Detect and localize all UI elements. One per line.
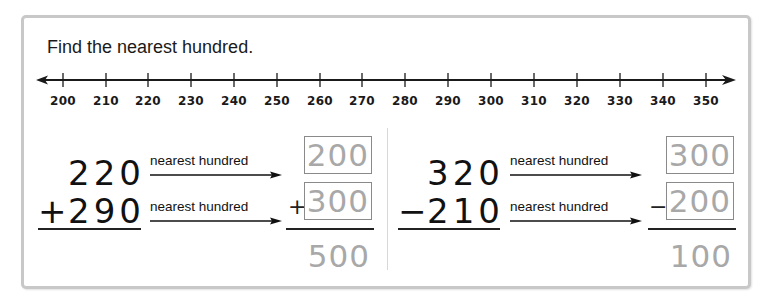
rounded-answer-box[interactable]: 300: [304, 182, 372, 220]
tick-label: 320: [557, 94, 597, 108]
addend-bottom: 290: [68, 194, 145, 228]
tick-label: 280: [385, 94, 425, 108]
estimated-sum: 500: [300, 238, 370, 274]
nearest-hundred-label: nearest hundred: [150, 154, 248, 168]
rounded-answer-box[interactable]: 200: [666, 182, 734, 220]
nearest-hundred-label: nearest hundred: [510, 154, 608, 168]
arrow-right-icon: [150, 216, 282, 226]
sum-line: [286, 228, 374, 230]
rounded-answer-box[interactable]: 300: [666, 136, 734, 174]
nearest-hundred-label: nearest hundred: [510, 200, 608, 214]
tick-label: 220: [128, 94, 168, 108]
operator-minus: −: [649, 196, 667, 218]
addend-top: 220: [68, 156, 145, 190]
tick-label: 310: [514, 94, 554, 108]
tick-label: 210: [86, 94, 126, 108]
tick-label: 290: [428, 94, 468, 108]
difference-line: [648, 228, 736, 230]
arrow-right-icon: [150, 170, 282, 180]
operator-minus: −: [398, 194, 427, 228]
difference-line: [398, 228, 500, 230]
arrow-right-icon: [510, 216, 642, 226]
nearest-hundred-label: nearest hundred: [150, 200, 248, 214]
tick-label: 340: [643, 94, 683, 108]
tick-label: 230: [171, 94, 211, 108]
sum-line: [38, 228, 141, 230]
subtrahend: 210: [427, 194, 504, 228]
arrow-right-icon: [510, 170, 642, 180]
operator-plus: +: [38, 194, 67, 228]
minuend: 320: [427, 156, 504, 190]
tick-label: 200: [43, 94, 83, 108]
tick-label: 270: [342, 94, 382, 108]
tick-label: 300: [471, 94, 511, 108]
estimated-difference: 100: [662, 238, 732, 274]
tick-label: 240: [214, 94, 254, 108]
problem-divider: [387, 128, 388, 270]
tick-label: 330: [600, 94, 640, 108]
tick-label: 250: [257, 94, 297, 108]
tick-label: 350: [686, 94, 726, 108]
rounded-answer-box[interactable]: 200: [304, 136, 372, 174]
tick-label: 260: [300, 94, 340, 108]
